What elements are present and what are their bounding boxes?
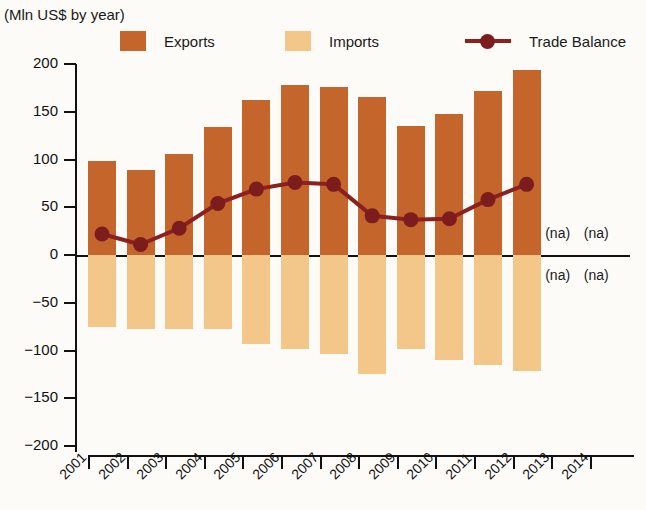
x-tick: [320, 455, 322, 469]
trade-balance-point: [172, 221, 187, 236]
x-tick: [165, 455, 167, 469]
trade-balance-point: [403, 212, 418, 227]
trade-balance-point: [210, 196, 225, 211]
trade-balance-point: [249, 182, 264, 197]
x-tick: [204, 455, 206, 469]
legend-label-exports: Exports: [164, 33, 215, 50]
na-label: (na): [584, 225, 609, 241]
x-tick: [397, 455, 399, 469]
legend-item-trade-balance[interactable]: Trade Balance: [465, 30, 626, 52]
trade-balance-point: [519, 177, 534, 192]
exports-swatch-icon: [120, 31, 146, 51]
legend-label-imports: Imports: [329, 33, 379, 50]
plot-area: 200150100500−50−100−150−200 (na)(na)(na)…: [0, 55, 646, 455]
trade-balance-line-marker-icon: [465, 31, 511, 51]
trade-balance-point: [442, 211, 457, 226]
x-tick: [474, 455, 476, 469]
trade-balance-point: [95, 226, 110, 241]
x-tick: [551, 455, 553, 469]
chart-subtitle: (Mln US$ by year): [4, 6, 125, 23]
x-tick: [281, 455, 283, 469]
x-tick: [88, 455, 90, 469]
imports-swatch-icon: [285, 31, 311, 51]
trade-balance-polyline: [102, 182, 527, 244]
trade-balance-point: [288, 175, 303, 190]
legend-item-imports[interactable]: Imports: [285, 30, 379, 52]
x-tick: [242, 455, 244, 469]
trade-balance-point: [326, 177, 341, 192]
x-tick: [435, 455, 437, 469]
na-label: (na): [584, 267, 609, 283]
trade-balance-line: [0, 55, 646, 455]
legend-label-trade-balance: Trade Balance: [529, 33, 626, 50]
x-tick: [358, 455, 360, 469]
x-axis: 2001200220032004200520062007200820092010…: [0, 455, 646, 510]
trade-balance-point: [365, 208, 380, 223]
chart-figure: Exports, Imports and Trade Balance, by y…: [0, 0, 646, 510]
x-tick: [513, 455, 515, 469]
trade-balance-point: [133, 237, 148, 252]
legend-item-exports[interactable]: Exports: [120, 30, 215, 52]
na-label: (na): [545, 225, 570, 241]
trade-balance-point: [481, 192, 496, 207]
x-tick: [127, 455, 129, 469]
na-label: (na): [545, 267, 570, 283]
x-tick: [590, 455, 592, 469]
